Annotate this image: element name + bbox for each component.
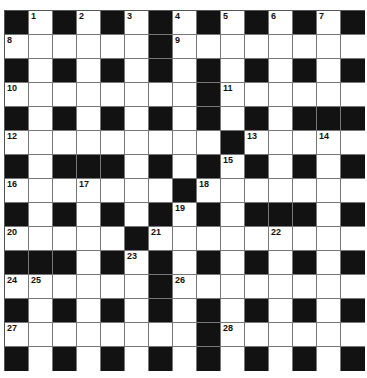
grid-cell[interactable] [221,179,245,203]
grid-cell[interactable]: 15 [221,155,245,179]
grid-cell[interactable] [29,35,53,59]
grid-cell[interactable] [77,107,101,131]
grid-cell[interactable] [293,83,317,107]
grid-cell[interactable] [173,251,197,275]
grid-cell[interactable] [221,251,245,275]
grid-cell[interactable] [317,323,341,347]
grid-cell[interactable] [173,155,197,179]
grid-cell[interactable]: 26 [173,275,197,299]
grid-cell[interactable] [53,83,77,107]
grid-cell[interactable] [77,323,101,347]
grid-cell[interactable] [149,323,173,347]
grid-cell[interactable] [245,275,269,299]
grid-cell[interactable] [293,179,317,203]
grid-cell[interactable] [29,347,53,371]
grid-cell[interactable]: 20 [5,227,29,251]
grid-cell[interactable] [101,131,125,155]
grid-cell[interactable] [125,59,149,83]
grid-cell[interactable] [245,179,269,203]
grid-cell[interactable] [29,323,53,347]
grid-cell[interactable] [77,227,101,251]
grid-cell[interactable]: 1 [29,11,53,35]
grid-cell[interactable] [221,203,245,227]
grid-cell[interactable]: 6 [269,11,293,35]
grid-cell[interactable] [77,35,101,59]
grid-cell[interactable]: 4 [173,11,197,35]
grid-cell[interactable] [317,179,341,203]
grid-cell[interactable]: 11 [221,83,245,107]
grid-cell[interactable] [125,203,149,227]
grid-cell[interactable]: 28 [221,323,245,347]
grid-cell[interactable] [125,347,149,371]
grid-cell[interactable] [29,155,53,179]
grid-cell[interactable] [77,251,101,275]
grid-cell[interactable] [173,107,197,131]
grid-cell[interactable] [77,347,101,371]
grid-cell[interactable]: 14 [317,131,341,155]
grid-cell[interactable] [101,35,125,59]
grid-cell[interactable] [269,299,293,323]
grid-cell[interactable] [269,107,293,131]
grid-cell[interactable] [221,227,245,251]
grid-cell[interactable] [173,299,197,323]
grid-cell[interactable] [317,59,341,83]
grid-cell[interactable] [53,275,77,299]
grid-cell[interactable]: 3 [125,11,149,35]
grid-cell[interactable] [269,83,293,107]
grid-cell[interactable] [173,323,197,347]
grid-cell[interactable]: 25 [29,275,53,299]
grid-cell[interactable] [101,83,125,107]
grid-cell[interactable] [245,323,269,347]
grid-cell[interactable] [77,59,101,83]
grid-cell[interactable] [125,131,149,155]
grid-cell[interactable]: 18 [197,179,221,203]
grid-cell[interactable] [53,227,77,251]
grid-cell[interactable] [269,323,293,347]
grid-cell[interactable] [269,251,293,275]
grid-cell[interactable] [293,131,317,155]
grid-cell[interactable] [77,299,101,323]
grid-cell[interactable] [293,227,317,251]
grid-cell[interactable] [341,323,365,347]
grid-cell[interactable] [221,347,245,371]
grid-cell[interactable]: 17 [77,179,101,203]
grid-cell[interactable] [125,323,149,347]
grid-cell[interactable] [173,59,197,83]
grid-cell[interactable] [245,227,269,251]
grid-cell[interactable] [293,275,317,299]
grid-cell[interactable] [53,179,77,203]
grid-cell[interactable] [173,347,197,371]
grid-cell[interactable] [317,275,341,299]
grid-cell[interactable] [245,83,269,107]
grid-cell[interactable] [221,59,245,83]
grid-cell[interactable] [293,323,317,347]
grid-cell[interactable] [149,131,173,155]
grid-cell[interactable] [77,131,101,155]
grid-cell[interactable]: 16 [5,179,29,203]
grid-cell[interactable]: 24 [5,275,29,299]
grid-cell[interactable] [77,203,101,227]
grid-cell[interactable] [221,35,245,59]
grid-cell[interactable]: 2 [77,11,101,35]
grid-cell[interactable] [53,131,77,155]
grid-cell[interactable] [77,83,101,107]
grid-cell[interactable] [293,35,317,59]
grid-cell[interactable] [317,155,341,179]
grid-cell[interactable] [317,83,341,107]
grid-cell[interactable]: 19 [173,203,197,227]
grid-cell[interactable] [29,131,53,155]
grid-cell[interactable]: 13 [245,131,269,155]
grid-cell[interactable] [269,275,293,299]
grid-cell[interactable] [317,347,341,371]
grid-cell[interactable] [341,83,365,107]
grid-cell[interactable] [317,251,341,275]
grid-cell[interactable] [173,131,197,155]
grid-cell[interactable] [317,35,341,59]
grid-cell[interactable] [29,203,53,227]
grid-cell[interactable] [341,131,365,155]
grid-cell[interactable] [269,347,293,371]
grid-cell[interactable] [245,35,269,59]
grid-cell[interactable] [269,179,293,203]
grid-cell[interactable] [101,275,125,299]
grid-cell[interactable] [125,107,149,131]
